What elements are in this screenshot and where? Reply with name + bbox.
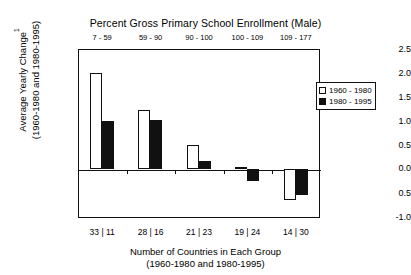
- bar-group: [78, 49, 126, 218]
- y-tick-label: 1.5: [383, 93, 411, 102]
- y-tick-label: 2.0: [383, 69, 411, 78]
- legend-label: 1960 - 1980: [329, 87, 372, 95]
- group-range-label: 59 - 90: [126, 33, 174, 45]
- bar-1980-1995: [199, 161, 211, 169]
- bar-1960-1980: [187, 145, 199, 169]
- bar-1980-1995: [247, 169, 259, 181]
- bars-layer: [78, 49, 320, 218]
- y-axis-title-superscript: 1: [13, 28, 20, 32]
- bar-1980-1995: [296, 169, 308, 195]
- legend-entry: 1960 - 1980: [319, 85, 372, 96]
- bar-1960-1980: [138, 110, 150, 169]
- group-range-label: 90 - 100: [175, 33, 223, 45]
- group-count-labels: 33 | 11 28 | 16 21 | 23 19 | 24 14 | 30: [78, 227, 320, 239]
- group-count-label: 28 | 16: [126, 227, 174, 239]
- y-axis-title-text: Average Yearly Change: [18, 32, 29, 132]
- bar-group: [223, 49, 271, 218]
- y-axis-title: Average Yearly Change1 (1960-1980 and 19…: [15, 0, 41, 170]
- legend-swatch-icon: [319, 87, 326, 94]
- group-range-label: 100 - 109: [223, 33, 271, 45]
- bar-1960-1980: [90, 73, 102, 169]
- group-count-label: 14 | 30: [272, 227, 320, 239]
- chart-top-title: Percent Gross Primary School Enrollment …: [0, 17, 411, 29]
- legend-label: 1980 - 1995: [329, 98, 372, 106]
- y-axis-title-main: Average Yearly Change1: [14, 28, 29, 131]
- bar-chart: Percent Gross Primary School Enrollment …: [0, 0, 411, 275]
- bar-group: [126, 49, 174, 218]
- bar-1960-1980: [235, 167, 247, 169]
- y-tick-label: 0.5: [383, 189, 411, 198]
- group-count-label: 33 | 11: [78, 227, 126, 239]
- group-count-label: 21 | 23: [175, 227, 223, 239]
- legend-entry: 1980 - 1995: [319, 96, 372, 107]
- y-tick-label: 2.5: [383, 45, 411, 54]
- x-axis-title-sub: (1960-1980 and 1980-1995): [0, 258, 411, 270]
- x-axis-title: Number of Countries in Each Group (1960-…: [0, 246, 411, 270]
- group-range-headers: 7 - 59 59 - 90 90 - 100 100 - 109 109 - …: [78, 33, 320, 45]
- bar-1980-1995: [102, 121, 114, 169]
- x-axis-title-main: Number of Countries in Each Group: [0, 246, 411, 258]
- group-range-label: 109 - 177: [272, 33, 320, 45]
- group-count-label: 19 | 24: [223, 227, 271, 239]
- y-tick-label: 1.0: [383, 117, 411, 126]
- y-axis-title-sub: (1960-1980 and 1980-1995): [30, 21, 42, 139]
- bar-1960-1980: [284, 169, 296, 200]
- bar-group: [272, 49, 320, 218]
- y-tick-label: 0.0: [383, 164, 411, 173]
- bar-1980-1995: [150, 120, 162, 169]
- y-tick-label: 0.5: [383, 141, 411, 150]
- y-tick-label: -1.0: [383, 213, 411, 222]
- legend-swatch-icon: [319, 98, 326, 105]
- bar-group: [175, 49, 223, 218]
- chart-legend: 1960 - 1980 1980 - 1995: [316, 82, 376, 110]
- group-range-label: 7 - 59: [78, 33, 126, 45]
